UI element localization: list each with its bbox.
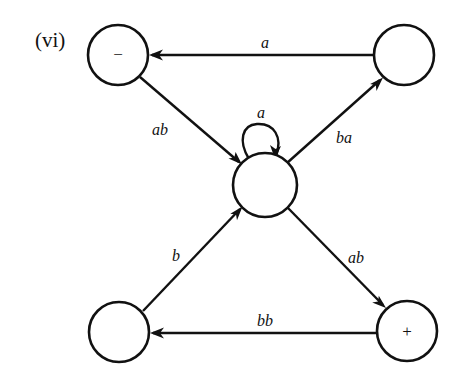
edge-top-right-to-top-left: a [149,34,374,61]
transition-graph: (vi) a ab a ba b ab bb [0,0,465,380]
node-bottom-right-final: + [377,301,437,361]
edge-bottom-left-to-center: b [143,207,243,312]
plus-icon: + [402,322,412,341]
edge-bottom-right-to-bottom-left: bb [150,312,377,339]
edge-label: bb [257,312,273,329]
minus-icon: − [113,45,123,64]
edge-center-loop: a [243,104,281,159]
edge-label: ab [152,121,168,138]
node-top-right [374,25,434,85]
arrowhead-icon [370,78,383,92]
node-top-left-start: − [88,25,148,85]
panel-label: (vi) [35,28,65,52]
edge-top-left-to-center: ab [140,77,242,165]
edge-center-to-bottom-right: ab [288,208,386,308]
edge-label: a [257,104,265,121]
edge-label: b [172,247,180,264]
edge-label: ab [348,249,364,266]
node-bottom-left [89,302,149,362]
edge-label: a [261,34,269,51]
node-center [233,153,297,217]
edge-label: ba [336,129,352,146]
edge-center-to-top-right: ba [287,78,383,164]
